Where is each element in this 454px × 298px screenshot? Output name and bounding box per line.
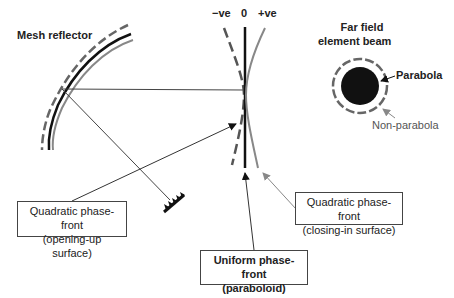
arrow-closing-in — [263, 173, 296, 209]
mesh-reflector-label: Mesh reflector — [17, 29, 92, 41]
far-field-beam-icon — [333, 59, 387, 113]
opening-up-callout: Quadratic phase-front (opening-up surfac… — [17, 201, 127, 237]
ray-to-feed — [62, 89, 170, 200]
negative-label: −ve — [212, 7, 231, 19]
zero-label: 0 — [241, 7, 247, 19]
arrow-parabola — [381, 76, 395, 81]
feed-array-icon — [164, 192, 185, 212]
arrow-uniform — [245, 173, 254, 250]
arrow-opening-up — [72, 124, 236, 201]
mesh-reflector-curves — [42, 25, 133, 150]
ray-horizontal — [62, 89, 244, 90]
far-field-title-line1: Far field — [335, 21, 389, 33]
closing-in-callout: Quadratic phase-front (closing-in surfac… — [295, 192, 403, 225]
far-field-title-line2: element beam — [318, 35, 391, 47]
positive-label: +ve — [258, 7, 277, 19]
uniform-callout: Uniform phase-front (paraboloid) — [200, 250, 308, 285]
phase-front-curves — [224, 27, 265, 168]
arrow-non-parabola — [383, 109, 395, 118]
parabola-label: Parabola — [396, 69, 442, 81]
non-parabola-label: Non-parabola — [372, 119, 439, 131]
